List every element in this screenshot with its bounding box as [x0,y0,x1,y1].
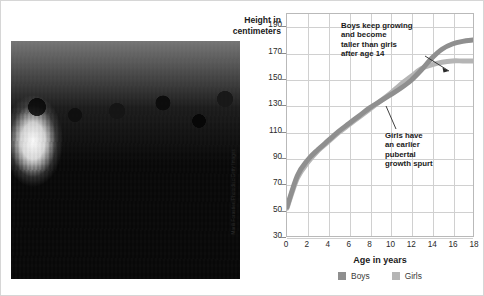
y-axis-tick-label: 30 [256,231,282,240]
y-axis-tick-label: 70 [256,178,282,187]
gridline-horizontal [287,238,473,239]
girls-annotation-line-2: an earlier [385,140,445,149]
y-axis-tick-mark [281,158,286,159]
y-axis-tick-mark [281,79,286,80]
boys-color-swatch-icon [338,272,346,280]
y-axis-tick-mark [281,53,286,54]
boys-line [287,40,473,207]
x-axis-tick-label: 0 [277,240,295,249]
girls-line [287,61,473,208]
y-axis-tick-mark [281,26,286,27]
girls-annotation-line-4: growth spurt [385,159,445,168]
y-axis-tick-label: 130 [256,99,282,108]
girls-color-swatch-icon [392,272,400,280]
legend-label-boys: Boys [351,271,370,281]
boys-annotation-line-2: and become [341,30,427,39]
x-axis-tick-label: 10 [381,240,399,249]
y-axis-tick-mark [281,184,286,185]
growth-chart: 19017015013011090705030 024681012141618 … [263,9,475,291]
legend-item-girls[interactable]: Girls [392,271,422,281]
x-axis-tick-label: 8 [361,240,379,249]
photo-credit: Marili Forastieri/Photodisc/Getty Images [232,149,237,234]
y-axis-tick-label: 50 [256,205,282,214]
y-axis-tick-label: 170 [256,47,282,56]
y-axis-tick-label: 190 [256,20,282,29]
legend-label-girls: Girls [405,271,422,281]
y-axis-tick-label: 150 [256,73,282,82]
boys-annotation: Boys keep growing and become taller than… [341,21,427,59]
x-axis-tick-label: 4 [319,240,337,249]
x-axis-tick-label: 6 [340,240,358,249]
girls-annotation-line-1: Girls have [385,131,445,140]
x-axis-tick-label: 18 [465,240,483,249]
photo-image [11,41,240,279]
boys-annotation-line-4: after age 14 [341,49,427,58]
x-axis-tick-label: 12 [402,240,420,249]
y-axis-tick-mark [281,211,286,212]
y-axis-tick-label: 110 [256,126,282,135]
x-axis-tick-label: 14 [423,240,441,249]
boys-annotation-line-3: taller than girls [341,40,427,49]
y-axis-tick-mark [281,132,286,133]
x-axis-tick-label: 16 [444,240,462,249]
x-axis-tick-label: 2 [298,240,316,249]
y-axis-tick-mark [281,105,286,106]
y-axis-tick-mark [281,237,286,238]
chart-legend: Boys Girls [286,271,474,281]
girls-annotation-line-3: pubertal [385,150,445,159]
boys-annotation-line-1: Boys keep growing [341,21,427,30]
x-axis-title: Age in years [286,255,474,265]
figure-container: Marili Forastieri/Photodisc/Getty Images… [0,0,484,296]
girls-annotation: Girls have an earlier pubertal growth sp… [385,131,445,169]
legend-item-boys[interactable]: Boys [338,271,370,281]
teenagers-photo [11,41,240,279]
y-axis-tick-label: 90 [256,152,282,161]
